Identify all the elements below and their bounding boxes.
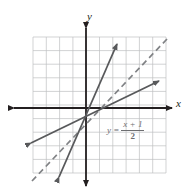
plot-canvas (0, 0, 189, 194)
coordinate-plane-figure: y x y = x + 1 2 (0, 0, 189, 194)
axes (14, 28, 172, 186)
fraction-numerator: x + 1 (121, 120, 144, 129)
equation-label: y = x + 1 2 (107, 120, 144, 141)
equation-lhs: y = (107, 126, 119, 135)
y-axis-label: y (87, 10, 92, 22)
x-axis-label: x (176, 97, 181, 109)
equation-fraction: x + 1 2 (121, 120, 144, 141)
fraction-denominator: 2 (131, 132, 136, 141)
grid (33, 37, 166, 173)
